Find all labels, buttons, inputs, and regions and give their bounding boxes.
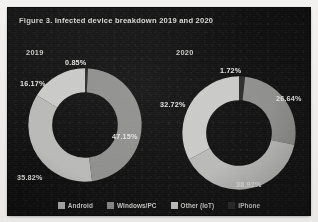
data-label-2019-android: 35.82% xyxy=(17,173,43,182)
data-label-2020-iphone: 1.72% xyxy=(220,66,241,75)
legend-label-other-iot: Other (IoT) xyxy=(181,202,215,209)
figure-title: Figure 3. Infected device breakdown 2019… xyxy=(19,16,213,25)
figure-panel: Figure 3. Infected device breakdown 2019… xyxy=(8,8,310,215)
legend-item-android: Android xyxy=(58,202,93,209)
donut-svg-2020 xyxy=(180,74,298,192)
page-background: Figure 3. Infected device breakdown 2019… xyxy=(0,0,318,222)
chart-legend: Android Windows/PC Other (IoT) iPhone xyxy=(8,202,310,209)
donut-slice-other-iot xyxy=(182,76,239,159)
donut-chart-2020 xyxy=(180,74,298,192)
data-label-2020-other-iot: 32.72% xyxy=(160,100,186,109)
donut-slice-windows-pc xyxy=(87,68,142,181)
legend-swatch-android xyxy=(58,202,65,209)
legend-label-iphone: iPhone xyxy=(238,202,260,209)
legend-swatch-windows-pc xyxy=(107,202,114,209)
legend-item-other-iot: Other (IoT) xyxy=(171,202,215,209)
data-label-2020-android: 38.92% xyxy=(236,180,262,189)
chart-year-label-2019: 2019 xyxy=(26,48,44,57)
data-label-2020-windows: 26.64% xyxy=(276,94,302,103)
legend-item-iphone: iPhone xyxy=(228,202,260,209)
legend-swatch-other-iot xyxy=(171,202,178,209)
data-label-2019-other-iot: 16.17% xyxy=(20,79,46,88)
legend-swatch-iphone xyxy=(228,202,235,209)
donut-slice-android xyxy=(28,95,92,181)
data-label-2019-iphone: 0.85% xyxy=(65,58,86,67)
chart-year-label-2020: 2020 xyxy=(176,48,194,57)
legend-label-windows-pc: Windows/PC xyxy=(117,202,157,209)
legend-label-android: Android xyxy=(68,202,93,209)
data-label-2019-windows: 47.15% xyxy=(112,132,138,141)
legend-item-windows-pc: Windows/PC xyxy=(107,202,157,209)
donut-slice-windows-pc xyxy=(243,77,296,145)
